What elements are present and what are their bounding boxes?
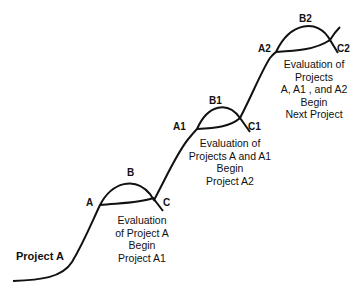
stage3-note-line: Projects — [268, 71, 360, 84]
stage2-note-line: Projects A and A1 — [178, 150, 282, 163]
stage3-note-line: A, A1 , and A2 — [268, 83, 360, 96]
stage2-note-line: Begin — [178, 162, 282, 175]
stage2-note-line: Evaluation of — [178, 137, 282, 150]
stage3-evaluation-arc — [276, 40, 338, 53]
stage2-evaluation-arc — [197, 118, 250, 132]
stage1-start-label: A — [86, 198, 93, 208]
stage2-end-label: C1 — [248, 122, 261, 132]
stage3-start-label: A2 — [258, 44, 271, 54]
stage3-end-label: C2 — [337, 44, 350, 54]
stage1-peak-label: B — [127, 168, 134, 178]
stage1-note: Evaluation of Project A Begin Project A1 — [102, 214, 182, 264]
stage2-note-line: Project A2 — [178, 175, 282, 188]
stage3-peak-label: B2 — [299, 14, 312, 24]
stage3-note-line: Begin — [268, 96, 360, 109]
stage1-note-line: Project A1 — [102, 252, 182, 265]
stage3-note-line: Next Project — [268, 108, 360, 121]
stage2-note: Evaluation of Projects A and A1 Begin Pr… — [178, 137, 282, 187]
stage3-note-line: Evaluation of — [268, 58, 360, 71]
stage1-note-line: of Project A — [102, 227, 182, 240]
stage2-peak-label: B1 — [209, 96, 222, 106]
stage2-start-label: A1 — [173, 122, 186, 132]
stage1-end-label: C — [163, 198, 170, 208]
project-title: Project A — [16, 250, 64, 262]
stage3-note: Evaluation of Projects A, A1 , and A2 Be… — [268, 58, 360, 121]
stage1-evaluation-arc — [100, 198, 163, 211]
stage1-note-line: Evaluation — [102, 214, 182, 227]
stage1-note-line: Begin — [102, 239, 182, 252]
